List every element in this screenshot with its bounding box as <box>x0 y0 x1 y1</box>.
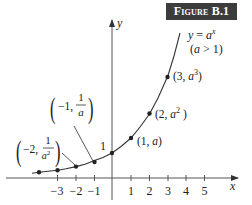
point-x-0 <box>110 151 114 155</box>
function-label: y = ax (a > 1) <box>187 27 223 56</box>
equation: y = ax <box>187 27 216 42</box>
leader-line-minus-1 <box>74 126 93 161</box>
tick-label: 4 <box>183 184 189 198</box>
svg-text:−2,: −2, <box>23 143 38 156</box>
svg-text:): ) <box>55 134 60 169</box>
tick-label: −2 <box>70 184 83 198</box>
point-x-2 <box>147 111 151 115</box>
point-label-1: (1, a) <box>137 135 162 148</box>
point-label-minus-1: ( −1, 1 a ) <box>50 91 93 126</box>
x-tick-labels: −3 −2 −1 1 2 3 4 5 <box>51 184 208 198</box>
point-x-minus-4 <box>37 170 41 174</box>
svg-text:−1,: −1, <box>58 100 73 113</box>
tick-label: −1 <box>88 184 101 198</box>
x-axis-label: x <box>229 179 236 193</box>
y-axis-label: y <box>116 16 123 30</box>
exponential-graph: −3 −2 −1 1 2 3 4 5 x y 1 (1, a) (2, a2 )… <box>0 0 252 205</box>
tick-label: 3 <box>165 184 171 198</box>
svg-text:(: ( <box>16 134 21 169</box>
point-x-3 <box>165 75 169 79</box>
point-x-1 <box>129 136 133 140</box>
leader-line-minus-2 <box>62 153 75 165</box>
svg-text:1: 1 <box>78 91 84 103</box>
svg-text:a: a <box>78 106 84 118</box>
tick-label: −3 <box>51 184 64 198</box>
tick-label: 2 <box>147 184 153 198</box>
svg-text:(: ( <box>50 91 55 126</box>
svg-text:): ) <box>88 91 93 126</box>
point-label-3: (3, a3) <box>173 68 202 83</box>
tick-label: 1 <box>128 184 134 198</box>
point-label-0: 1 <box>100 139 106 153</box>
point-x-minus-3 <box>55 168 59 172</box>
point-label-2: (2, a2 ) <box>155 106 187 121</box>
condition: (a > 1) <box>190 42 223 56</box>
point-label-minus-2: ( −2, 1 a2 ) <box>16 134 61 169</box>
tick-label: 5 <box>202 184 208 198</box>
svg-text:a2: a2 <box>42 149 51 161</box>
svg-text:1: 1 <box>45 134 51 146</box>
